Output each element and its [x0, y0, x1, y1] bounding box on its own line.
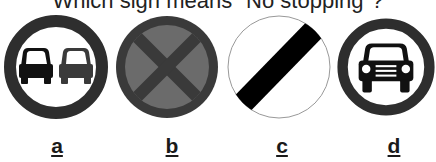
no-stopping-clearway-sign-icon	[114, 14, 220, 120]
sign-option-b[interactable]	[114, 14, 220, 120]
question-text: Which sign means "No stopping"?	[0, 0, 436, 14]
national-speed-limit-sign-icon	[226, 14, 332, 120]
option-label-b[interactable]: b	[157, 134, 187, 158]
sign-option-a[interactable]	[3, 14, 109, 120]
no-overtaking-sign-icon	[3, 14, 109, 120]
sign-option-d[interactable]	[336, 17, 436, 117]
no-motor-vehicles-sign-icon	[336, 17, 436, 117]
option-label-a[interactable]: a	[42, 134, 72, 158]
sign-option-c[interactable]	[226, 14, 332, 120]
option-label-c[interactable]: c	[267, 134, 297, 158]
option-label-d[interactable]: d	[379, 134, 409, 158]
